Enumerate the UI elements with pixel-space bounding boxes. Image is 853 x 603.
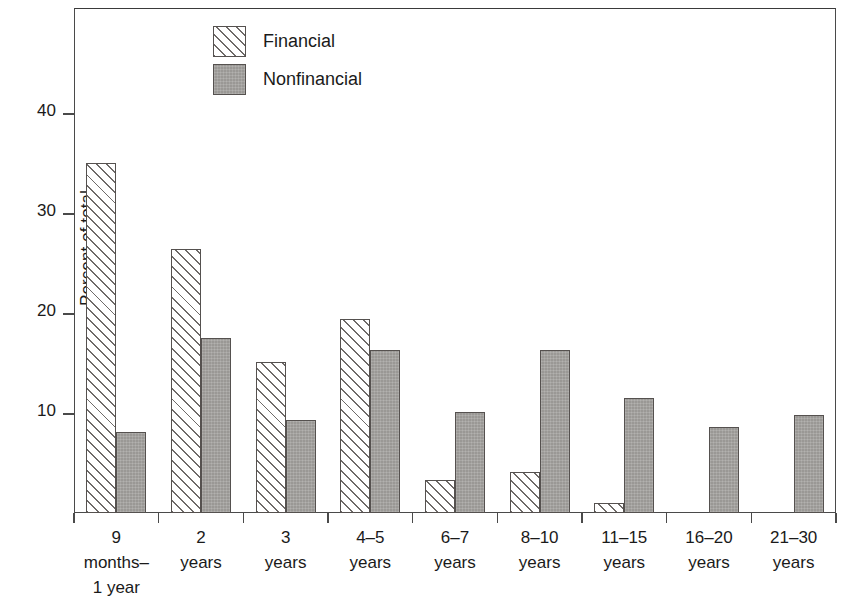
bar-nonfinancial bbox=[794, 415, 824, 513]
bar-nonfinancial bbox=[370, 350, 400, 513]
bar-group bbox=[86, 8, 146, 513]
bar-nonfinancial bbox=[709, 427, 739, 513]
x-tick bbox=[243, 513, 245, 523]
hatched-swatch-icon bbox=[213, 26, 246, 57]
x-axis-label: 6–7 years bbox=[407, 525, 503, 575]
y-tick-mark bbox=[63, 413, 74, 415]
legend-item: Nonfinancial bbox=[213, 60, 473, 98]
bar-nonfinancial bbox=[624, 398, 654, 513]
x-tick bbox=[412, 513, 414, 523]
x-axis-label: 2 years bbox=[153, 525, 249, 575]
legend-label: Nonfinancial bbox=[263, 69, 362, 90]
legend: FinancialNonfinancial bbox=[213, 22, 473, 98]
x-axis-label: 11–15 years bbox=[576, 525, 672, 575]
y-tick-label: 40 bbox=[37, 101, 56, 121]
y-tick-40: 40 bbox=[0, 113, 74, 114]
bar-nonfinancial bbox=[201, 338, 231, 513]
x-tick bbox=[73, 513, 75, 523]
bar-nonfinancial bbox=[455, 412, 485, 513]
x-tick bbox=[835, 513, 837, 523]
x-tick bbox=[158, 513, 160, 523]
bar-financial bbox=[340, 319, 370, 513]
y-tick-mark bbox=[63, 113, 74, 115]
y-tick-30: 30 bbox=[0, 213, 74, 214]
bar-financial bbox=[425, 480, 455, 513]
x-axis-label: 4–5 years bbox=[322, 525, 418, 575]
bar-chart-figure: Percent of total 10203040 9 months– 1 ye… bbox=[0, 0, 853, 603]
x-tick bbox=[497, 513, 499, 523]
x-tick bbox=[666, 513, 668, 523]
bar-nonfinancial bbox=[116, 432, 146, 513]
y-tick-mark bbox=[63, 313, 74, 315]
bar-financial bbox=[256, 362, 286, 513]
x-tick bbox=[327, 513, 329, 523]
x-axis-label: 21–30 years bbox=[746, 525, 842, 575]
x-axis-label: 9 months– 1 year bbox=[68, 525, 164, 600]
y-tick-label: 10 bbox=[37, 401, 56, 421]
x-tick bbox=[751, 513, 753, 523]
bar-nonfinancial bbox=[286, 420, 316, 513]
x-tick bbox=[581, 513, 583, 523]
bar-nonfinancial bbox=[540, 350, 570, 513]
legend-item: Financial bbox=[213, 22, 473, 60]
y-tick-mark bbox=[63, 213, 74, 215]
x-axis-label: 3 years bbox=[238, 525, 334, 575]
y-tick-label: 30 bbox=[37, 201, 56, 221]
y-tick-10: 10 bbox=[0, 413, 74, 414]
bar-group bbox=[510, 8, 570, 513]
bar-financial bbox=[171, 249, 201, 513]
bar-financial bbox=[594, 503, 624, 513]
legend-label: Financial bbox=[263, 31, 335, 52]
gray-swatch-icon bbox=[213, 64, 246, 95]
y-tick-20: 20 bbox=[0, 313, 74, 314]
x-axis-label: 8–10 years bbox=[492, 525, 588, 575]
bar-group bbox=[764, 8, 824, 513]
y-tick-label: 20 bbox=[37, 301, 56, 321]
x-axis-label: 16–20 years bbox=[661, 525, 757, 575]
bar-group bbox=[679, 8, 739, 513]
bar-financial bbox=[86, 163, 116, 513]
bar-group bbox=[594, 8, 654, 513]
bar-financial bbox=[510, 472, 540, 513]
